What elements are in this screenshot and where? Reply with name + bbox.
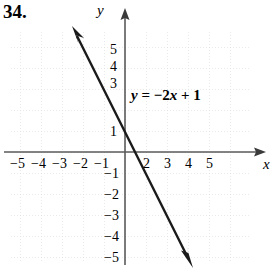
equation-equals: = <box>141 87 150 103</box>
x-tick-label-2: −3 <box>52 156 67 172</box>
equation-coefficient: 2 <box>162 87 170 103</box>
equation-constant: 1 <box>193 87 201 103</box>
x-axis-label: x <box>263 156 270 173</box>
x-tick-label-1: −4 <box>31 156 46 172</box>
equation-sign: − <box>154 87 163 103</box>
y-tick-label-3: 1 <box>110 124 117 140</box>
y-tick-label-6: −3 <box>104 208 119 224</box>
y-tick-label-4: −1 <box>104 166 119 182</box>
y-tick-label-2: 3 <box>110 76 117 92</box>
figure-canvas: 34. y x y = −2x + 1 −5−4−3−2−12345 5431−… <box>0 0 279 269</box>
y-tick-label-8: −5 <box>104 250 119 266</box>
x-tick-label-6: 3 <box>164 156 171 172</box>
coordinate-plane <box>0 0 279 269</box>
x-tick-label-8: 5 <box>206 156 213 172</box>
equation-annotation: y = −2x + 1 <box>131 87 201 104</box>
y-tick-label-5: −2 <box>104 187 119 203</box>
y-tick-label-0: 5 <box>110 42 117 58</box>
equation-lhs: y <box>131 87 138 103</box>
x-tick-label-5: 2 <box>143 156 150 172</box>
y-tick-label-1: 4 <box>110 59 117 75</box>
x-tick-label-7: 4 <box>185 156 192 172</box>
y-tick-label-7: −4 <box>104 229 119 245</box>
y-axis-label: y <box>97 2 104 19</box>
x-tick-label-0: −5 <box>10 156 25 172</box>
equation-plus: + <box>181 87 190 103</box>
x-tick-label-3: −2 <box>73 156 88 172</box>
grid <box>9 30 251 263</box>
